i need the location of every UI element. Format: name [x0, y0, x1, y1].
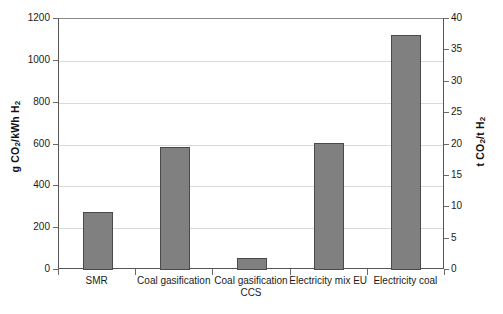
x-axis-category-label-line2: CCS — [206, 287, 295, 299]
y-axis-right-tick — [444, 18, 449, 19]
x-axis-category-label-line1: Coal gasification — [129, 275, 218, 287]
x-axis-category-label: Coal gasificationCCS — [206, 275, 295, 299]
gridline — [59, 186, 443, 187]
x-axis-category-label-line1: Electricity mix EU — [284, 275, 373, 287]
y-axis-left-title-prefix: g CO — [9, 147, 21, 173]
y-axis-right-tick-label: 40 — [451, 13, 491, 23]
gridline — [59, 228, 443, 229]
y-axis-left-tick-label: 200 — [6, 222, 50, 232]
y-axis-right-tick — [444, 238, 449, 239]
y-axis-right-tick-label: 20 — [451, 139, 491, 149]
bar — [83, 212, 113, 270]
y-axis-right-tick-label: 5 — [451, 233, 491, 243]
y-axis-left-tick-label: 1000 — [6, 55, 50, 65]
bar — [391, 35, 421, 270]
y-axis-right-tick-label: 15 — [451, 170, 491, 180]
y-axis-left-title-mid: /kWh H — [9, 105, 21, 142]
y-axis-right-tick — [444, 144, 449, 145]
y-axis-right-tick — [444, 49, 449, 50]
y-axis-left-tick — [53, 60, 58, 61]
x-axis-category-label-line1: Coal gasification — [206, 275, 295, 287]
y-axis-right-tick — [444, 175, 449, 176]
x-axis-category-label-line1: Electricity coal — [361, 275, 450, 287]
y-axis-left-tick-label: 800 — [6, 97, 50, 107]
y-axis-left-tick-label: 400 — [6, 180, 50, 190]
y-axis-right-tick-label: 0 — [451, 264, 491, 274]
x-axis-category-label: Coal gasification — [129, 275, 218, 287]
x-axis-category-label: SMR — [52, 275, 141, 287]
gridline — [59, 61, 443, 62]
y-axis-left-tick — [53, 227, 58, 228]
y-axis-right-tick-label: 10 — [451, 201, 491, 211]
y-axis-right-tick-label: 30 — [451, 76, 491, 86]
y-axis-right-tick — [444, 81, 449, 82]
y-axis-right-tick-label: 25 — [451, 107, 491, 117]
y-axis-left-tick — [53, 102, 58, 103]
y-axis-left-tick — [53, 185, 58, 186]
gridline — [59, 145, 443, 146]
bar — [160, 147, 190, 270]
y-axis-left-tick-label: 1200 — [6, 13, 50, 23]
y-axis-right-tick — [444, 206, 449, 207]
y-axis-right-tick — [444, 112, 449, 113]
plot-area — [58, 18, 444, 269]
y-axis-left-tick-label: 0 — [6, 264, 50, 274]
y-axis-right-title-mid: /t H — [474, 121, 486, 139]
x-axis-category-label: Electricity coal — [361, 275, 450, 287]
x-axis-category-label: Electricity mix EU — [284, 275, 373, 287]
bar — [237, 258, 267, 270]
bar-chart: g CO2/kWh H2 t CO2/t H2 0200400600800100… — [0, 0, 503, 314]
y-axis-left-title: g CO2/kWh H2 — [9, 77, 22, 197]
y-axis-left-tick — [53, 144, 58, 145]
y-axis-left-tick-label: 600 — [6, 139, 50, 149]
x-axis-category-label-line1: SMR — [52, 275, 141, 287]
y-axis-right-tick-label: 35 — [451, 44, 491, 54]
gridline — [59, 103, 443, 104]
y-axis-left-tick — [53, 18, 58, 19]
y-axis-right-title-sub2: 2 — [478, 117, 487, 122]
bar — [314, 143, 344, 270]
